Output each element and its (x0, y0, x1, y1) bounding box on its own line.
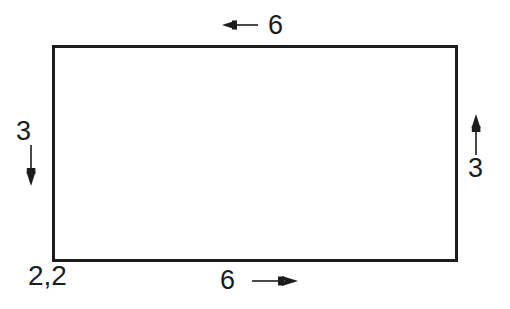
dimension-label-bottom: 6 (220, 267, 236, 294)
diagram-canvas: 6 3 3 6 2,2 (0, 0, 510, 309)
top-dimension-arrow-left-icon (222, 21, 258, 30)
dimension-label-top: 6 (268, 12, 284, 39)
dimension-label-right: 3 (468, 155, 484, 182)
right-dimension-arrow-up-icon (472, 114, 481, 155)
dimension-label-left: 3 (16, 118, 32, 145)
rectangle-shape (54, 47, 457, 261)
origin-coordinate-label: 2,2 (28, 262, 67, 290)
diagram-vector-layer (0, 0, 510, 309)
bottom-dimension-arrow-right-icon (252, 276, 298, 286)
left-dimension-arrow-down-icon (27, 145, 36, 186)
